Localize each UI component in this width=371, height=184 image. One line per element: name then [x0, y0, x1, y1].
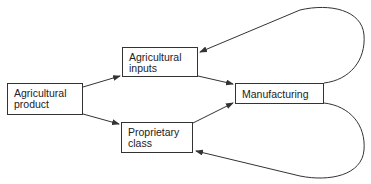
- node-manufacturing: Manufacturing: [235, 83, 324, 104]
- edge-product-to-proprietary: [83, 114, 119, 124]
- node-label-line2: class: [128, 138, 186, 149]
- edge-loop-manufacturing-to-inputs: [200, 7, 364, 83]
- node-label-line2: product: [14, 99, 76, 110]
- node-proprietary-class: Proprietary class: [121, 122, 193, 153]
- node-label-line2: inputs: [129, 63, 191, 74]
- edge-product-to-inputs: [83, 76, 120, 87]
- node-label-line1: Manufacturing: [242, 89, 317, 100]
- edge-inputs-to-manufacturing: [198, 76, 233, 84]
- edge-proprietary-to-manufacturing: [193, 103, 233, 123]
- node-agricultural-inputs: Agricultural inputs: [122, 47, 198, 77]
- edge-loop-manufacturing-to-proprietary: [196, 103, 364, 178]
- node-agricultural-product: Agricultural product: [7, 83, 83, 115]
